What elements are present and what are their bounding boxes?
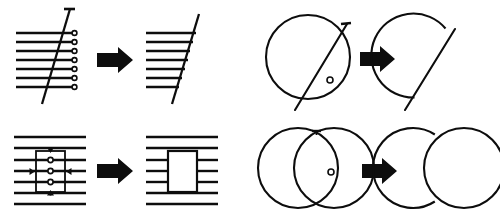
transform-arrow-icon [360, 46, 395, 72]
cutting-line-diagonal [405, 29, 455, 110]
endpoint-circle-icon [72, 67, 77, 72]
source-circle-left [258, 128, 338, 208]
intersection-circle-icon [327, 77, 333, 83]
source-circle-right [424, 128, 500, 208]
interior-circle-icon [48, 179, 53, 184]
transform-arrow-icon [362, 158, 397, 184]
interior-circle-icon [48, 168, 53, 173]
boundary-arrow-cap-left-icon [30, 168, 36, 175]
panel-two-circles-before [258, 128, 374, 208]
panel-lines-diagonal-after [146, 14, 199, 104]
cutting-line-diagonal [42, 9, 70, 104]
panel-lines-diagonal [0, 0, 250, 110]
panel-lines-diagonal-before [16, 9, 77, 104]
interior-circle-icon [48, 157, 53, 162]
cutting-line-tee-cap-icon [341, 23, 351, 24]
endpoint-circle-icon [72, 85, 77, 90]
panel-lines-rectangle-after [146, 137, 218, 204]
endpoint-circle-icon [72, 49, 77, 54]
transform-arrow-icon [97, 158, 133, 184]
intersection-circle-icon [328, 169, 334, 175]
endpoint-circle-icon [72, 40, 77, 45]
trim-boundary-rectangle [168, 151, 197, 192]
horizontal-line-set [16, 33, 74, 87]
endpoint-marker-set [72, 31, 77, 90]
figure-canvas [0, 0, 500, 221]
endpoint-circle-icon [72, 58, 77, 63]
endpoint-circle-icon [72, 31, 77, 36]
source-circle [266, 15, 350, 99]
interior-marker-set [48, 157, 53, 184]
panel-lines-rectangle-before [14, 137, 86, 204]
boundary-arrow-cap-right-icon [66, 168, 72, 175]
panel-circle-line [250, 0, 500, 110]
endpoint-circle-icon [72, 76, 77, 81]
transform-arrow-icon [97, 47, 133, 73]
panel-two-circles [250, 110, 500, 221]
panel-circle-line-before [266, 15, 351, 110]
panel-lines-rectangle [0, 110, 250, 221]
